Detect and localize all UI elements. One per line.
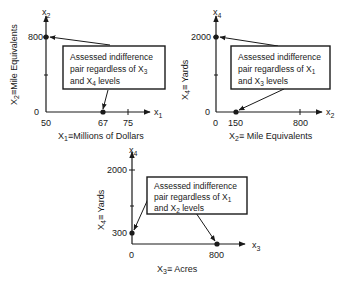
- box-line-2: pair regardless of X1: [154, 192, 232, 203]
- box-line-3: and X2 levels: [154, 203, 204, 214]
- panel-x1-x2: x2 x1 800 0 50 67 75 X2≡Mile Equivalents…: [9, 7, 165, 142]
- x-tick-800: 800: [209, 250, 224, 260]
- y-tick-2000: 2000: [191, 32, 211, 42]
- x-tick-800: 800: [293, 118, 308, 128]
- box-line-1: Assessed indifference: [70, 52, 153, 62]
- x-axis-symbol: x2: [326, 107, 335, 119]
- y-tick-300: 300: [112, 228, 127, 238]
- point-a: [43, 34, 48, 39]
- box-line-1: Assessed indifference: [154, 181, 237, 191]
- x-axis-label: X2≡ Mile Equivalents: [229, 131, 313, 142]
- box-line-3: and X4 levels: [70, 76, 120, 87]
- x-tick-0: 0: [213, 118, 218, 128]
- y-axis-symbol: x4: [213, 7, 222, 19]
- box-line-1: Assessed indifference: [238, 52, 321, 62]
- x-axis-label: X1≡Millions of Dollars: [58, 131, 144, 142]
- y-tick-0: 0: [34, 107, 39, 117]
- y-axis-label: X4≡ Yards: [96, 189, 107, 230]
- point-a: [129, 230, 134, 235]
- box-line-2: pair regardless of X1: [238, 64, 316, 75]
- y-axis-symbol: x4: [129, 145, 138, 157]
- y-axis-label: X4≡ Yards: [180, 59, 191, 100]
- y-axis-symbol: x2: [42, 7, 51, 19]
- x-tick-0: 0: [129, 250, 134, 260]
- y-tick-2000: 2000: [107, 165, 127, 175]
- panel-x3-x4: x4 x3 2000 300 0 800 X4≡ Yards X3≡ Acres…: [96, 145, 261, 275]
- x-tick-150: 150: [228, 118, 243, 128]
- x-axis-symbol: x3: [252, 240, 261, 252]
- y-tick-800: 800: [28, 32, 43, 42]
- x-axis-symbol: x1: [154, 107, 163, 119]
- x-axis-label: X3≡ Acres: [157, 264, 198, 275]
- point-b: [233, 109, 238, 114]
- y-tick-0: 0: [205, 107, 210, 117]
- panel-x2-x4: x4 x2 2000 0 0 150 800 X4≡ Yards X2≡ Mil…: [180, 7, 335, 142]
- x-tick-75: 75: [123, 118, 133, 128]
- box-line-2: pair regardless of X3: [70, 64, 148, 75]
- indifference-diagrams: x2 x1 800 0 50 67 75 X2≡Mile Equivalents…: [0, 0, 346, 288]
- point-a: [213, 34, 218, 39]
- x-tick-67: 67: [98, 118, 108, 128]
- x-tick-50: 50: [41, 118, 51, 128]
- box-line-3: and X3 levels: [238, 76, 288, 87]
- point-b: [214, 241, 219, 246]
- y-axis-label: X2≡Mile Equivalents: [9, 24, 20, 105]
- point-b: [100, 109, 105, 114]
